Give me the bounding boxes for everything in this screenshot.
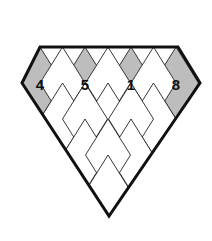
diamond-cell-3-label: 1 (127, 76, 135, 93)
diamond-cell-2-label: 5 (81, 76, 89, 93)
diamond-cell-1-label: 4 (36, 76, 45, 93)
diamond-cell-4-label: 8 (172, 76, 180, 93)
rhombic-diamond-puzzle-figure: 3 4 5 1 8 (0, 0, 212, 241)
mask-top (0, 0, 212, 47)
